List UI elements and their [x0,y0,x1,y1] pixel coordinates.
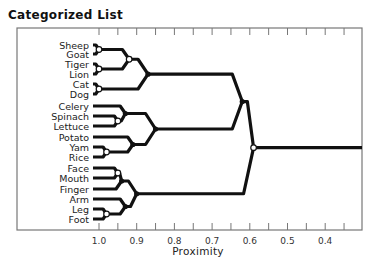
tick-label: 0.9 [130,236,145,246]
branch [93,181,122,189]
branch [122,181,137,194]
branch [93,106,125,114]
branch [93,121,118,126]
dendrogram-branches [93,45,362,219]
node-open-leg_foot [104,211,110,217]
node-filled-body_parts [134,191,139,196]
node-open-root [251,145,257,151]
node-open-cat_dog [96,86,102,92]
node-filled-starches [130,142,135,147]
branch [156,102,243,129]
dendrogram-chart: 1.00.90.80.70.60.50.4 SheepGoatTigerLion… [0,0,377,267]
node-filled-face_parts [119,178,124,183]
node-filled-limbs [123,204,128,209]
tick-label: 1.0 [92,236,107,246]
branch [93,199,125,207]
node-filled-foods [153,126,158,131]
x-axis-label: Proximity [172,245,224,257]
branch [242,102,253,148]
branch [129,59,148,74]
node-filled-animals [145,72,150,77]
leaf-label-foot: Foot [69,214,90,225]
node-open-yam_rice [104,149,110,155]
node-filled-greens [123,111,128,116]
branch [99,59,129,69]
node-open-tiger_lion [96,66,102,72]
branch [133,129,156,145]
tick-label: 0.6 [243,236,258,246]
node-open-sheep_goat [96,47,102,53]
leaf-label-rice: Rice [69,152,89,163]
branch [107,145,133,153]
branch [125,114,155,130]
branch [93,137,133,145]
node-filled-living_food [240,99,245,104]
branch [99,74,148,89]
branch [148,74,242,101]
leaf-labels: SheepGoatTigerLionCatDogCelerySpinachLet… [51,40,89,225]
leaf-label-mouth: Mouth [59,173,89,184]
leaf-label-lettuce: Lettuce [53,121,89,132]
branch [93,116,118,121]
branch [137,148,254,194]
node-open-face_mouth [115,170,121,176]
tick-label: 0.4 [318,236,333,246]
tick-label: 0.5 [280,236,294,246]
dendrogram-nodes [96,47,256,217]
node-open-spinach_lettuce [115,118,121,124]
branch [93,173,118,178]
node-open-farm_wild [126,56,132,62]
branch [99,50,129,60]
leaf-label-dog: Dog [70,89,89,100]
branch [93,168,118,173]
